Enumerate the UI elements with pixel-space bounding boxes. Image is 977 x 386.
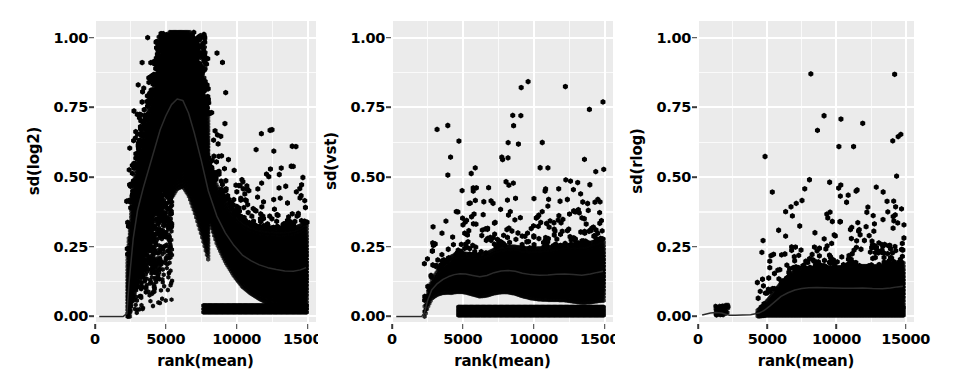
y-tick-label: 0.00 [350,308,385,324]
y-axis-label-text: sd(rlog) [628,128,646,193]
x-axis: 050001000015000rank(mean) [0,324,330,384]
x-tick-mark [836,324,838,329]
y-tick-mark [89,176,94,178]
x-tick-mark [604,324,606,329]
plot-panel [392,21,613,322]
x-axis-label: rank(mean) [362,352,643,370]
x-tick-label: 10000 [509,331,558,347]
x-tick-mark [462,324,464,329]
x-tick-mark [165,324,167,329]
hexbin-density-layer [95,21,316,322]
panel-1: sd(log2)0.000.250.500.751.00050001000015… [0,0,330,386]
y-tick-mark [89,246,94,248]
x-tick-label: 5000 [443,331,482,347]
x-tick-clip: 050001000015000 [648,324,977,350]
y-tick-label: 1.00 [350,30,385,46]
y-axis-label: sd(log2) [23,0,45,322]
y-axis-label: sd(vst) [320,0,342,322]
y-tick-label: 0.50 [53,169,88,185]
x-axis-label: rank(mean) [65,352,346,370]
x-tick-label: 15000 [881,331,930,347]
x-tick-label: 0 [693,331,703,347]
x-tick-label: 5000 [146,331,185,347]
y-tick-mark [386,107,391,109]
y-tick-mark [89,37,94,39]
x-tick-mark [697,324,699,329]
y-tick-mark [692,37,697,39]
y-axis-label-text: sd(log2) [25,127,43,195]
x-tick-clip: 050001000015000 [330,324,615,350]
x-tick-label: 5000 [748,331,787,347]
y-tick-label: 0.75 [656,99,691,115]
y-tick-mark [692,316,697,318]
y-tick-mark [89,107,94,109]
y-tick-label: 0.00 [53,308,88,324]
y-tick-mark [692,246,697,248]
x-tick-label: 0 [90,331,100,347]
y-tick-label: 0.50 [350,169,385,185]
x-axis-label: rank(mean) [668,352,944,370]
y-tick-mark [386,246,391,248]
y-tick-label: 1.00 [656,30,691,46]
x-tick-mark [307,324,309,329]
y-axis-label: sd(rlog) [626,0,648,322]
x-tick-clip: 050001000015000 [0,324,318,350]
plot-panel [698,21,914,322]
x-tick-mark [94,324,96,329]
y-tick-mark [386,37,391,39]
x-tick-mark [391,324,393,329]
y-tick-mark [692,107,697,109]
x-tick-label: 15000 [580,331,615,347]
x-tick-label: 10000 [812,331,861,347]
hexbin-density-layer [698,21,914,322]
y-tick-label: 0.75 [350,99,385,115]
y-tick-label: 0.00 [656,308,691,324]
x-tick-mark [533,324,535,329]
x-axis: 050001000015000rank(mean) [330,324,648,384]
y-tick-mark [692,176,697,178]
y-tick-label: 0.25 [350,239,385,255]
y-tick-label: 0.25 [53,239,88,255]
hexbin-density-layer [392,21,613,322]
y-tick-mark [89,316,94,318]
y-tick-mark [386,316,391,318]
x-tick-label: 0 [387,331,397,347]
y-tick-mark [386,176,391,178]
x-tick-mark [905,324,907,329]
x-tick-mark [236,324,238,329]
x-tick-label: 10000 [212,331,261,347]
x-axis: 050001000015000rank(mean) [648,324,977,384]
panel-2: sd(vst)0.000.250.500.751.000500010000150… [330,0,648,386]
panel-3: sd(rlog)0.000.250.500.751.00050001000015… [648,0,977,386]
y-tick-label: 1.00 [53,30,88,46]
x-tick-label: 15000 [283,331,318,347]
y-tick-label: 0.25 [656,239,691,255]
y-axis-label-text: sd(vst) [322,132,340,190]
plot-panel [95,21,316,322]
mean-sd-figure: sd(log2)0.000.250.500.751.00050001000015… [0,0,977,386]
x-tick-mark [766,324,768,329]
y-tick-label: 0.50 [656,169,691,185]
y-tick-label: 0.75 [53,99,88,115]
